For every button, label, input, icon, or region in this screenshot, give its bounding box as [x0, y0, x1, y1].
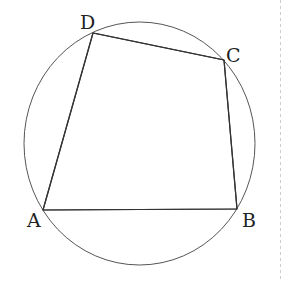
- vertex-label-b: B: [242, 209, 256, 231]
- cyclic-quadrilateral-diagram: D C A B: [0, 0, 283, 281]
- vertex-label-a: A: [26, 209, 41, 231]
- side-da: [43, 33, 93, 210]
- circumscribed-circle: [24, 22, 255, 265]
- side-ab: [43, 209, 237, 210]
- quadrilateral-abcd: [43, 33, 237, 210]
- vertex-label-c: C: [226, 44, 241, 66]
- vertex-label-d: D: [80, 11, 95, 33]
- side-cd: [93, 33, 224, 60]
- side-bc: [224, 60, 237, 209]
